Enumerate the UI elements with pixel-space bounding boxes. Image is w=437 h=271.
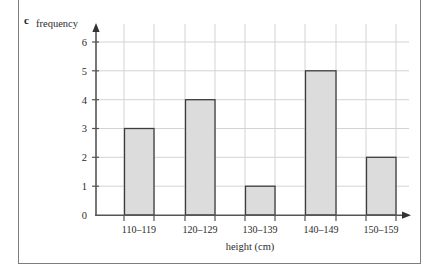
- x-category-label-2: 130–139: [243, 224, 278, 235]
- histogram-figure: 0 1 2 3 4 5 6 110–119 120–129 130–139 14…: [0, 0, 437, 271]
- chart-canvas: 0 1 2 3 4 5 6 110–119 120–129 130–139 14…: [0, 0, 437, 271]
- x-axis-title: height (cm): [226, 241, 275, 253]
- y-tick-label-0: 0: [82, 210, 87, 221]
- bar-150-159[interactable]: [367, 157, 397, 215]
- x-category-label-1: 120–129: [183, 224, 218, 235]
- y-tick-label-5: 5: [82, 66, 87, 77]
- y-axis-title: frequency: [36, 18, 79, 29]
- bar-110-119[interactable]: [125, 129, 155, 216]
- x-axis-arrow-icon: [402, 212, 411, 219]
- y-tick-label-1: 1: [82, 181, 87, 192]
- bars-group: [125, 71, 397, 215]
- x-category-label-3: 140–149: [304, 224, 339, 235]
- y-axis-arrow-icon: [92, 23, 99, 32]
- bar-140-149[interactable]: [306, 71, 337, 215]
- x-category-labels: 110–119 120–129 130–139 140–149 150–159: [122, 224, 399, 235]
- bar-130-139[interactable]: [246, 186, 276, 215]
- y-tick-labels: 0 1 2 3 4 5 6: [82, 37, 88, 221]
- y-tick-label-3: 3: [82, 123, 87, 134]
- bar-120-129[interactable]: [186, 100, 216, 215]
- x-category-label-4: 150–159: [364, 224, 399, 235]
- y-tick-label-4: 4: [82, 95, 88, 106]
- x-category-label-0: 110–119: [122, 224, 156, 235]
- y-tick-label-2: 2: [82, 152, 87, 163]
- y-tick-label-6: 6: [82, 37, 87, 48]
